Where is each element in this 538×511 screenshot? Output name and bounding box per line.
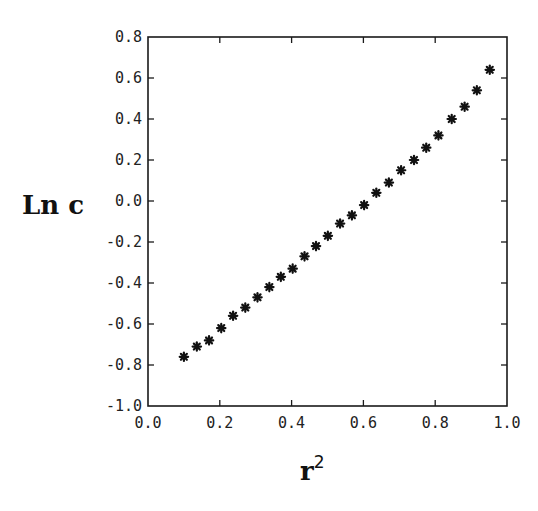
asterisk-marker-icon [217, 324, 225, 332]
x-tick-label: 0.4 [278, 414, 305, 432]
y-tick-label: -0.4 [106, 274, 142, 292]
plot-frame [148, 37, 507, 406]
y-tick-label: 0.2 [115, 151, 142, 169]
y-tick-label: -0.6 [106, 315, 142, 333]
asterisk-marker-icon [422, 144, 430, 152]
asterisk-marker-icon [448, 115, 456, 123]
y-tick-label: -1.0 [106, 397, 142, 415]
y-tick-label: 0.8 [115, 28, 142, 46]
x-axis-title: r2 [300, 452, 325, 486]
y-axis-ticks: -1.0-0.8-0.6-0.4-0.20.00.20.40.60.8 [106, 28, 507, 415]
asterisk-marker-icon [229, 312, 237, 320]
x-tick-label: 1.0 [493, 414, 520, 432]
x-tick-label: 0.6 [350, 414, 377, 432]
asterisk-marker-icon [324, 232, 332, 240]
x-tick-label: 0.8 [422, 414, 449, 432]
asterisk-marker-icon [180, 353, 188, 361]
asterisk-marker-icon [385, 178, 393, 186]
asterisk-marker-icon [486, 66, 494, 74]
asterisk-marker-icon [397, 166, 405, 174]
asterisk-marker-icon [312, 242, 320, 250]
y-axis-title: Ln c [22, 190, 84, 220]
y-tick-label: 0.0 [115, 192, 142, 210]
asterisk-marker-icon [460, 103, 468, 111]
asterisk-marker-icon [336, 219, 344, 227]
x-axis-title-base: r [300, 456, 314, 486]
asterisk-marker-icon [360, 201, 368, 209]
asterisk-marker-icon [205, 336, 213, 344]
scatter-chart: 0.00.20.40.60.81.0 -1.0-0.8-0.6-0.4-0.20… [0, 0, 538, 511]
asterisk-marker-icon [372, 189, 380, 197]
x-tick-label: 0.0 [134, 414, 161, 432]
y-tick-label: -0.2 [106, 233, 142, 251]
asterisk-marker-icon [348, 211, 356, 219]
x-axis-title-superscript: 2 [314, 452, 325, 472]
asterisk-marker-icon [473, 86, 481, 94]
y-tick-label: -0.8 [106, 356, 142, 374]
data-points [180, 66, 494, 361]
asterisk-marker-icon [253, 293, 261, 301]
x-tick-label: 0.2 [206, 414, 233, 432]
asterisk-marker-icon [434, 131, 442, 139]
asterisk-marker-icon [241, 303, 249, 311]
asterisk-marker-icon [277, 273, 285, 281]
asterisk-marker-icon [265, 283, 273, 291]
y-tick-label: 0.4 [115, 110, 142, 128]
axes-box [148, 37, 507, 406]
asterisk-marker-icon [410, 156, 418, 164]
asterisk-marker-icon [193, 342, 201, 350]
asterisk-marker-icon [300, 252, 308, 260]
y-tick-label: 0.6 [115, 69, 142, 87]
asterisk-marker-icon [288, 264, 296, 272]
